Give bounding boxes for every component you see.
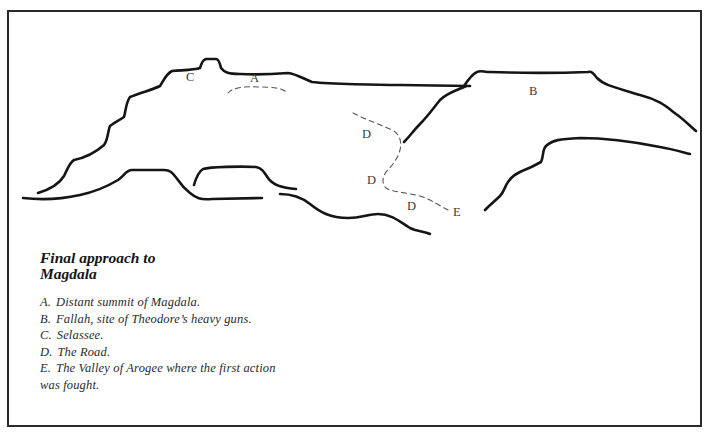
ridge-fallah-flank xyxy=(404,86,466,142)
legend-text: The Road. xyxy=(57,345,110,359)
legend-list: A.Distant summit of Magdala. B.Fallah, s… xyxy=(40,294,360,394)
map-label-d3: D xyxy=(407,199,416,213)
legend-text: Selassee. xyxy=(57,328,104,342)
map-label-d2: D xyxy=(367,173,376,187)
legend-key: B. xyxy=(40,312,51,326)
ridge-central-mound xyxy=(194,167,296,189)
legend: Final approach to Magdala A.Distant summ… xyxy=(40,250,360,394)
legend-text: Distant summit of Magdala. xyxy=(56,295,200,309)
legend-item-e-continued: was fought. xyxy=(40,377,360,394)
legend-text: Fallah, site of Theodore’s heavy guns. xyxy=(56,312,252,326)
ridge-lower-right xyxy=(485,138,690,210)
legend-item-b: B.Fallah, site of Theodore’s heavy guns. xyxy=(40,311,360,328)
legend-text: The Valley of Arogee where the first act… xyxy=(56,361,276,375)
map-label-b: B xyxy=(529,84,537,98)
legend-item-a: A.Distant summit of Magdala. xyxy=(40,294,360,311)
legend-key: D. xyxy=(40,345,52,359)
legend-key: A. xyxy=(40,295,51,309)
map-label-a: A xyxy=(250,71,259,85)
legend-key: E. xyxy=(40,361,51,375)
map-label-c: C xyxy=(186,70,194,84)
summit-magdala-outline xyxy=(228,87,286,93)
legend-item-d: D.The Road. xyxy=(40,344,360,361)
ridge-fallah-plateau xyxy=(464,71,696,131)
legend-item-e: E.The Valley of Arogee where the first a… xyxy=(40,360,360,377)
legend-key: C. xyxy=(40,328,52,342)
legend-text: was fought. xyxy=(40,378,99,392)
figure-title: Final approach to Magdala xyxy=(40,250,360,282)
ridge-foothill-left xyxy=(23,170,262,199)
legend-item-c: C.Selassee. xyxy=(40,327,360,344)
map-label-d1: D xyxy=(362,127,371,141)
map-label-e: E xyxy=(453,205,461,219)
